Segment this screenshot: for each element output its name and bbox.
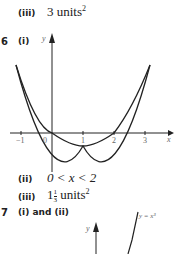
curve-label: y = x³ bbox=[139, 212, 156, 220]
y-axis-label-2: y bbox=[86, 224, 90, 233]
x-axis-label: x bbox=[167, 135, 171, 144]
part-iii-label-2: (iii) bbox=[18, 192, 35, 202]
tick-0: 0 bbox=[43, 136, 47, 145]
y-axis-label: y bbox=[42, 34, 46, 43]
part-iii-answer-2: 113 units2 bbox=[47, 187, 90, 204]
question-7-part: (i) and (ii) bbox=[18, 207, 69, 217]
tick-1: 1 bbox=[81, 136, 85, 145]
part-ii-label: (ii) bbox=[18, 174, 32, 184]
question-7-number: 7 bbox=[1, 207, 8, 218]
tick-2: 2 bbox=[112, 136, 116, 145]
part-ii-answer: 0 < x < 2 bbox=[47, 170, 96, 186]
tick-3: 3 bbox=[143, 136, 147, 145]
tick-neg1: −1 bbox=[16, 136, 25, 145]
